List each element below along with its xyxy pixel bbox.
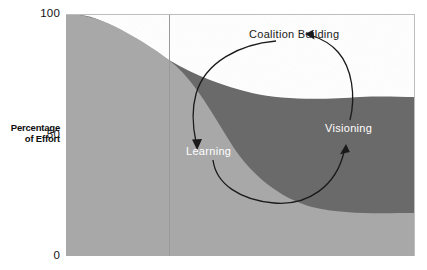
chart-figure: Percentage of Effort 100 50 0 Coalition … [0, 0, 427, 270]
y-tick-0: 0 [28, 249, 60, 261]
label-coalition-building: Coalition Building [249, 28, 339, 40]
label-visioning: Visioning [325, 122, 372, 134]
y-tick-50: 50 [28, 128, 60, 140]
area-chart-svg [0, 0, 427, 270]
y-tick-100: 100 [28, 7, 60, 19]
label-learning: Learning [186, 145, 231, 157]
